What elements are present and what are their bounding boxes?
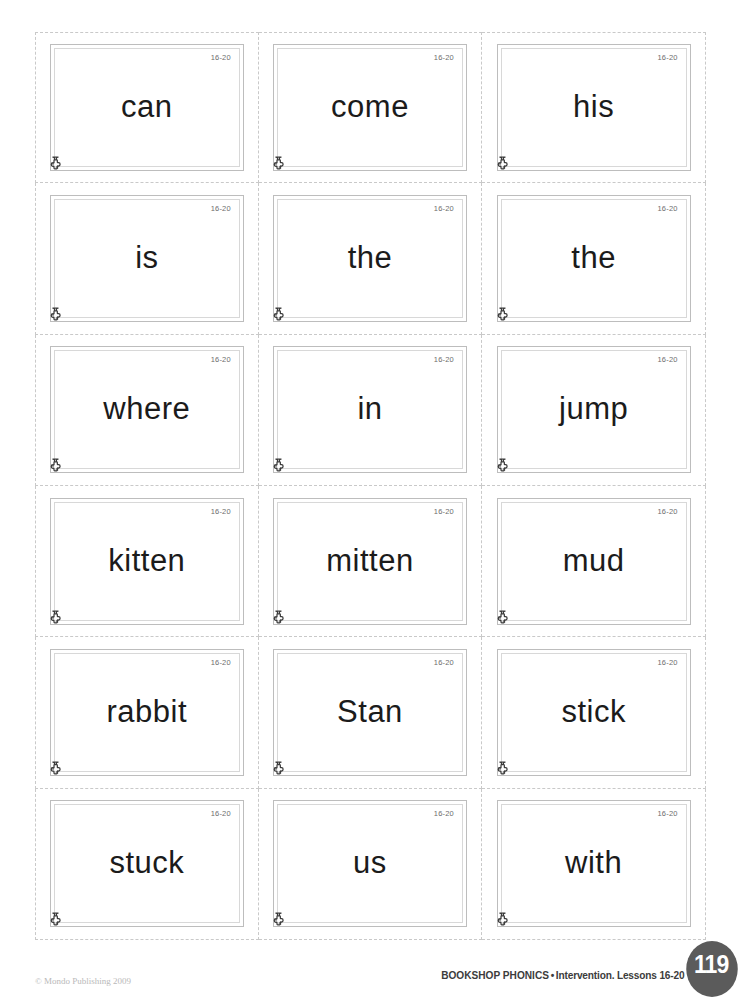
word-card[interactable]: 16-20mud <box>497 498 691 625</box>
word-card[interactable]: 16-20mitten <box>273 498 467 625</box>
lesson-range-tag: 16-20 <box>657 356 677 364</box>
lesson-range-tag: 16-20 <box>657 205 677 213</box>
puzzle-piece-icon <box>269 306 289 326</box>
lesson-range-tag: 16-20 <box>657 54 677 62</box>
lesson-range-tag: 16-20 <box>434 810 454 818</box>
word-card-frame: 16-20us <box>277 804 463 923</box>
footer-credit: BOOKSHOP PHONICS•Intervention. Lessons 1… <box>441 969 684 981</box>
word-card[interactable]: 16-20in <box>273 346 467 473</box>
word-card[interactable]: 16-20the <box>497 195 691 322</box>
word-card-frame: 16-20mud <box>501 502 687 621</box>
card-cut-grid: 16-20can16-20come16-20his16-20is16-20the… <box>35 32 706 940</box>
card-word: with <box>565 847 622 878</box>
word-card[interactable]: 16-20stick <box>497 649 691 776</box>
puzzle-piece-icon <box>493 155 513 175</box>
lesson-range-tag: 16-20 <box>211 205 231 213</box>
word-card[interactable]: 16-20is <box>50 195 244 322</box>
lesson-range-tag: 16-20 <box>211 659 231 667</box>
word-card[interactable]: 16-20stuck <box>50 800 244 927</box>
word-card[interactable]: 16-20kitten <box>50 498 244 625</box>
word-card[interactable]: 16-20come <box>273 44 467 171</box>
copyright-notice: © Mondo Publishing 2009 <box>35 976 131 986</box>
lesson-range-tag: 16-20 <box>434 508 454 516</box>
puzzle-piece-icon <box>269 911 289 931</box>
word-card-frame: 16-20is <box>54 199 240 318</box>
lesson-range-tag: 16-20 <box>211 356 231 364</box>
card-word: where <box>103 393 190 424</box>
puzzle-piece-icon <box>46 911 66 931</box>
word-card-frame: 16-20with <box>501 804 687 923</box>
card-word: his <box>573 91 614 122</box>
lesson-range-tag: 16-20 <box>211 810 231 818</box>
credit-series-name: BOOKSHOP PHONICS <box>441 969 549 981</box>
card-word: the <box>571 242 616 273</box>
word-card-frame: 16-20Stan <box>277 653 463 772</box>
cut-cell: 16-20the <box>482 183 706 334</box>
puzzle-piece-icon <box>493 911 513 931</box>
word-card[interactable]: 16-20Stan <box>273 649 467 776</box>
card-word: can <box>121 91 172 122</box>
word-card[interactable]: 16-20jump <box>497 346 691 473</box>
puzzle-piece-icon <box>269 155 289 175</box>
word-card-frame: 16-20the <box>277 199 463 318</box>
card-word: rabbit <box>107 696 188 727</box>
cut-cell: 16-20the <box>259 183 483 334</box>
card-word: mitten <box>326 545 413 576</box>
cut-cell: 16-20in <box>259 335 483 486</box>
puzzle-piece-icon <box>269 609 289 629</box>
puzzle-piece-icon <box>46 760 66 780</box>
lesson-range-tag: 16-20 <box>657 508 677 516</box>
card-word: stuck <box>109 847 184 878</box>
word-card-frame: 16-20rabbit <box>54 653 240 772</box>
word-card[interactable]: 16-20where <box>50 346 244 473</box>
word-card[interactable]: 16-20us <box>273 800 467 927</box>
word-card-frame: 16-20come <box>277 48 463 167</box>
cut-cell: 16-20can <box>35 32 259 183</box>
puzzle-piece-icon <box>269 457 289 477</box>
credit-detail: Intervention. Lessons 16-20 <box>555 969 684 981</box>
lesson-range-tag: 16-20 <box>434 54 454 62</box>
cut-cell: 16-20with <box>482 789 706 940</box>
word-card[interactable]: 16-20his <box>497 44 691 171</box>
lesson-range-tag: 16-20 <box>657 659 677 667</box>
cut-cell: 16-20stuck <box>35 789 259 940</box>
word-card-frame: 16-20mitten <box>277 502 463 621</box>
card-word: Stan <box>337 696 403 727</box>
card-word: jump <box>559 393 628 424</box>
card-word: come <box>331 91 409 122</box>
cut-cell: 16-20his <box>482 32 706 183</box>
lesson-range-tag: 16-20 <box>657 810 677 818</box>
word-card-frame: 16-20where <box>54 350 240 469</box>
word-card-frame: 16-20stuck <box>54 804 240 923</box>
puzzle-piece-icon <box>46 609 66 629</box>
puzzle-piece-icon <box>269 760 289 780</box>
cut-cell: 16-20come <box>259 32 483 183</box>
lesson-range-tag: 16-20 <box>211 508 231 516</box>
card-word: stick <box>561 696 626 727</box>
card-word: mud <box>563 545 625 576</box>
word-card[interactable]: 16-20with <box>497 800 691 927</box>
word-card[interactable]: 16-20can <box>50 44 244 171</box>
cut-cell: 16-20us <box>259 789 483 940</box>
cut-cell: 16-20is <box>35 183 259 334</box>
lesson-range-tag: 16-20 <box>434 659 454 667</box>
word-card[interactable]: 16-20rabbit <box>50 649 244 776</box>
lesson-range-tag: 16-20 <box>211 54 231 62</box>
card-word: the <box>348 242 393 273</box>
cut-cell: 16-20kitten <box>35 486 259 637</box>
word-card-frame: 16-20can <box>54 48 240 167</box>
page-footer: © Mondo Publishing 2009 BOOKSHOP PHONICS… <box>0 943 740 989</box>
word-card-frame: 16-20the <box>501 199 687 318</box>
puzzle-piece-icon <box>493 760 513 780</box>
cut-cell: 16-20mud <box>482 486 706 637</box>
page-number-badge: 119 <box>686 941 738 997</box>
puzzle-piece-icon <box>46 457 66 477</box>
puzzle-piece-icon <box>493 457 513 477</box>
puzzle-piece-icon <box>46 155 66 175</box>
cut-cell: 16-20mitten <box>259 486 483 637</box>
card-word: kitten <box>108 545 185 576</box>
cut-cell: 16-20rabbit <box>35 637 259 788</box>
word-card[interactable]: 16-20the <box>273 195 467 322</box>
lesson-range-tag: 16-20 <box>434 205 454 213</box>
